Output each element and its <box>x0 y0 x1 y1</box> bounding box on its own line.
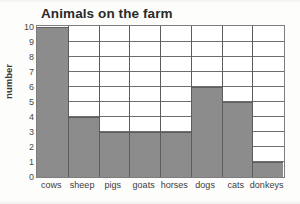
scan-edge-shade-top <box>0 0 300 3</box>
gridline-horizontal <box>37 86 284 87</box>
x-axis-tick-labels: cowssheeppigsgoatshorsesdogscatsdonkeys <box>36 180 285 196</box>
y-axis-tick-labels: 109876543210 <box>0 25 34 178</box>
bar-cows <box>37 27 68 177</box>
bar-pigs <box>99 132 130 177</box>
bar-donkeys <box>252 162 283 177</box>
y-tick-label: 5 <box>2 98 34 107</box>
y-tick-label: 3 <box>2 128 34 137</box>
y-tick-label: 1 <box>2 158 34 167</box>
y-tick-label: 9 <box>2 38 34 47</box>
gridline-vertical <box>252 26 253 177</box>
plot-inner <box>37 26 284 177</box>
y-tick-label: 4 <box>2 113 34 122</box>
plot-area <box>36 25 285 178</box>
gridline-horizontal <box>37 41 284 42</box>
gridline-horizontal <box>37 56 284 57</box>
y-tick-label: 10 <box>2 23 34 32</box>
bar-horses <box>160 132 191 177</box>
scan-edge-shade-bottom <box>0 200 300 204</box>
y-tick-label: 0 <box>2 173 34 182</box>
y-tick-label: 7 <box>2 68 34 77</box>
bar-sheep <box>68 117 99 177</box>
bar-cats <box>222 102 253 177</box>
y-tick-label: 6 <box>2 83 34 92</box>
bar-dogs <box>191 87 222 177</box>
x-tick-label-donkeys: donkeys <box>247 180 286 191</box>
y-tick-label: 2 <box>2 143 34 152</box>
bar-chart-figure: Animals on the farm number 109876543210 … <box>0 0 300 204</box>
chart-title: Animals on the farm <box>41 6 173 21</box>
bar-goats <box>129 132 160 177</box>
gridline-horizontal <box>37 71 284 72</box>
y-tick-label: 8 <box>2 53 34 62</box>
